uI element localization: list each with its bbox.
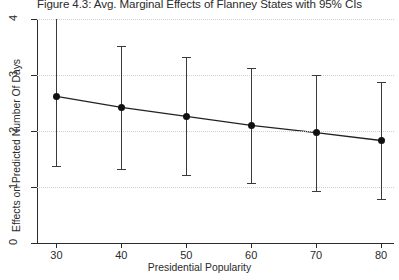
y-tick-label-1: 1 <box>7 171 19 201</box>
figure-panel: Figure 4.3: Avg. Marginal Effects of Fla… <box>0 0 399 280</box>
y-tick-label-4: 4 <box>7 3 19 33</box>
ci-upper-cap <box>377 82 386 83</box>
y-tick-3 <box>31 75 37 76</box>
x-tick-40 <box>121 243 122 248</box>
data-point-marker <box>53 93 60 100</box>
gridline-y-4 <box>37 19 394 21</box>
x-tick-label-50: 50 <box>171 249 201 261</box>
x-tick-label-80: 80 <box>366 249 396 261</box>
x-tick-50 <box>186 243 187 248</box>
ci-upper-cap <box>182 57 191 58</box>
data-point-marker <box>378 137 385 144</box>
y-tick-label-2: 2 <box>7 115 19 145</box>
gridline-y-3 <box>37 75 394 77</box>
x-axis-line <box>37 243 394 244</box>
x-tick-label-70: 70 <box>301 249 331 261</box>
ci-upper-cap <box>117 46 126 47</box>
data-point-marker <box>248 122 255 129</box>
ci-lower-cap <box>377 199 386 200</box>
y-tick-label-0: 0 <box>7 227 19 257</box>
ci-upper-cap <box>247 68 256 69</box>
y-tick-4 <box>31 19 37 20</box>
x-tick-label-60: 60 <box>236 249 266 261</box>
data-point-marker <box>118 104 125 111</box>
x-tick-label-30: 30 <box>41 249 71 261</box>
ci-lower-cap <box>312 191 321 192</box>
data-point-marker <box>313 129 320 136</box>
ci-lower-cap <box>52 166 61 167</box>
x-tick-80 <box>381 243 382 248</box>
y-tick-2 <box>31 131 37 132</box>
x-tick-60 <box>251 243 252 248</box>
figure-title: Figure 4.3: Avg. Marginal Effects of Fla… <box>0 0 399 10</box>
y-tick-1 <box>31 187 37 188</box>
plot-area <box>37 19 394 243</box>
y-tick-0 <box>31 243 37 244</box>
ci-upper-cap <box>312 75 321 76</box>
gridline-y-2 <box>37 131 394 133</box>
y-tick-label-3: 3 <box>7 59 19 89</box>
ci-lower-cap <box>117 169 126 170</box>
data-point-marker <box>183 113 190 120</box>
x-axis-label: Presidential Popularity <box>0 262 399 273</box>
ci-lower-cap <box>247 183 256 184</box>
gridline-y-1 <box>37 187 394 189</box>
ci-lower-cap <box>182 175 191 176</box>
x-tick-30 <box>56 243 57 248</box>
x-tick-70 <box>316 243 317 248</box>
x-tick-label-40: 40 <box>106 249 136 261</box>
